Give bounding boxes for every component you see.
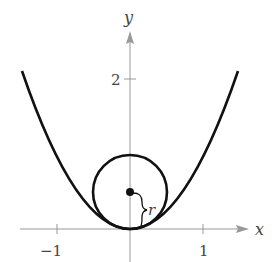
radius-brace-icon: [133, 193, 147, 229]
x-tick-label-1: 1: [199, 242, 209, 260]
y-tick-label-2: 2: [111, 71, 121, 89]
x-axis-label: x: [255, 220, 264, 239]
parabola-circle-diagram: x y −1 1 2 r: [0, 0, 273, 262]
y-axis-label: y: [123, 8, 134, 27]
radius-label: r: [148, 201, 156, 219]
x-tick-label-neg1: −1: [40, 242, 62, 260]
circle-center-point: [126, 188, 134, 196]
